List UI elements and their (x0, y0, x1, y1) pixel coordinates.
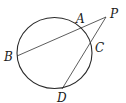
secant-pab (17, 17, 106, 56)
label-a: A (75, 12, 85, 26)
label-d: D (56, 91, 67, 103)
label-c: C (95, 41, 104, 55)
label-p: P (109, 7, 119, 21)
label-b: B (3, 50, 13, 64)
geometry-diagram: A P B C D (0, 0, 126, 103)
